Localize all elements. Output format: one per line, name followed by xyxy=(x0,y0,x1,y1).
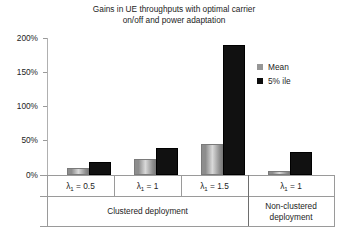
lambda-subscript-4: 1 xyxy=(284,185,287,192)
chart-legend: Mean 5% ile xyxy=(257,60,291,88)
legend-item-mean: Mean xyxy=(257,60,291,74)
legend-swatch-mean-icon xyxy=(257,64,263,70)
legend-item-p5ile: 5% ile xyxy=(257,74,291,88)
legend-label-mean: Mean xyxy=(268,62,289,72)
axis-cell-clustered-deployment: Clustered deployment xyxy=(47,196,248,227)
bar-mean-group-1 xyxy=(67,168,89,175)
y-tick-label-150: 150% xyxy=(4,67,38,77)
axis-cell-lambda-3: λ1 = 1.5 xyxy=(181,175,248,196)
lambda-value-4: = 1 xyxy=(288,181,302,191)
lambda-value-1: = 0.5 xyxy=(74,181,95,191)
axis-cell-lambda-4: λ1 = 1 xyxy=(248,175,334,196)
lambda-label-3: λ1 = 1.5 xyxy=(200,181,229,191)
bar-p5-group-2 xyxy=(156,148,178,175)
y-tick-label-100: 100% xyxy=(4,101,38,111)
lambda-subscript-3: 1 xyxy=(204,185,207,192)
table-rule-right xyxy=(334,175,335,226)
legend-label-p5ile: 5% ile xyxy=(268,76,291,86)
axis-cell-lambda-1: λ1 = 0.5 xyxy=(47,175,114,196)
lambda-label-4: λ1 = 1 xyxy=(280,181,302,191)
lambda-subscript-2: 1 xyxy=(141,185,144,192)
chart-figure: Gains in UE throughputs with optimal car… xyxy=(0,0,347,241)
bar-mean-group-3 xyxy=(201,144,223,175)
bar-p5-group-4 xyxy=(290,152,312,175)
y-tick-label-0: 0% xyxy=(4,170,38,180)
legend-swatch-p5ile-icon xyxy=(257,78,263,84)
bar-p5-group-3 xyxy=(223,45,245,175)
axis-label-table: λ1 = 0.5 λ1 = 1 λ1 = 1.5 λ1 = 1 Clustere… xyxy=(40,175,335,227)
bar-p5-group-1 xyxy=(89,162,111,175)
bar-mean-group-2 xyxy=(134,159,156,175)
y-tick-label-200: 200% xyxy=(4,33,38,43)
axis-cell-lambda-2: λ1 = 1 xyxy=(114,175,181,196)
lambda-label-2: λ1 = 1 xyxy=(137,181,159,191)
lambda-value-2: = 1 xyxy=(144,181,158,191)
plot-area xyxy=(47,38,335,175)
lambda-value-3: = 1.5 xyxy=(208,181,229,191)
chart-title-line-1: Gains in UE throughputs with optimal car… xyxy=(93,4,255,14)
lambda-subscript-1: 1 xyxy=(70,185,73,192)
axis-cell-nonclustered-deployment: Non-clustered deployment xyxy=(248,196,334,227)
lambda-label-1: λ1 = 0.5 xyxy=(66,181,95,191)
chart-title-line-2: on/off and power adaptation xyxy=(123,15,226,25)
y-tick-label-50: 50% xyxy=(4,135,38,145)
chart-title: Gains in UE throughputs with optimal car… xyxy=(40,4,308,26)
